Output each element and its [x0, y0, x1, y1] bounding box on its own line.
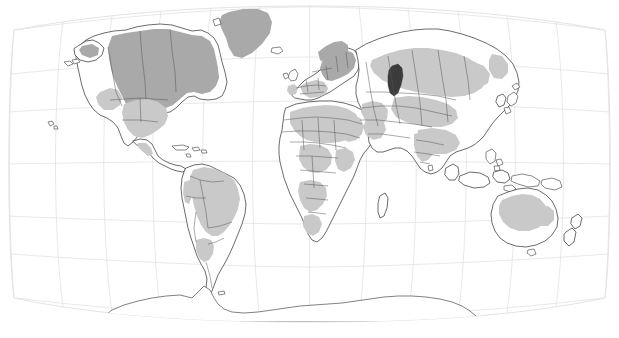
world-map-container: [0, 0, 619, 338]
world-map-svg: [0, 0, 619, 338]
